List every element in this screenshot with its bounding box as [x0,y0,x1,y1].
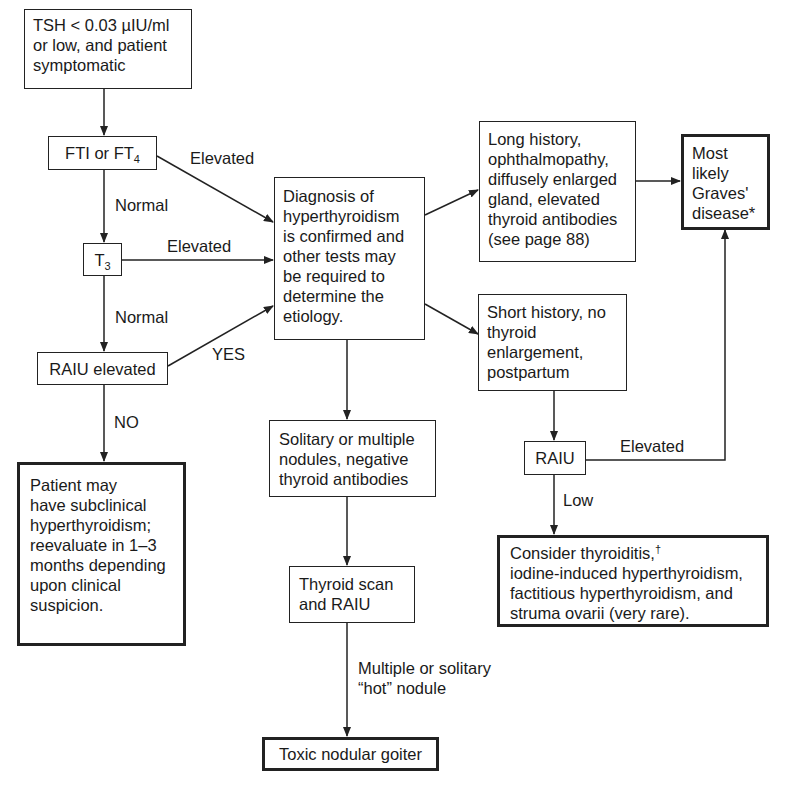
t3-box: T3 [83,243,122,276]
raiu-label: RAIU [535,448,574,468]
diagnosis-line-7: etiology. [283,306,416,326]
raiu-elevated-box: RAIU elevated [37,352,168,385]
diagnosis-box: Diagnosis of hyperthyroidism is confirme… [274,177,425,340]
edge-label-raiu-right-low: Low [563,490,593,510]
raiu-box: RAIU [524,441,586,475]
diagnosis-line-3: is confirmed and [283,226,416,246]
consider-line-1: Consider thyroiditis,† [510,543,756,563]
tsh-box: TSH < 0.03 µIU/ml or low, and patient sy… [24,9,192,89]
long-history-line-4: gland, elevated [488,189,627,209]
subclinical-line-4: reevaluate in 1–3 [30,535,173,555]
diagnosis-line-6: determine the [283,286,416,306]
edge-label-hot-nodule-1: Multiple or solitary [358,658,491,678]
short-history-line-4: postpartum [487,362,618,382]
consider-first-text: Consider thyroiditis, [510,544,655,562]
graves-box: Most likely Graves' disease* [681,134,770,230]
diagnosis-line-4: other tests may [283,246,416,266]
long-history-line-5: thyroid antibodies [488,209,627,229]
graves-line-3: Graves' [692,183,759,203]
t3-label: T3 [94,250,110,270]
nodules-line-3: thyroid antibodies [279,469,426,489]
thyroid-scan-box: Thyroid scan and RAIU [289,566,415,623]
consider-box: Consider thyroiditis,† iodine-induced hy… [497,535,769,627]
short-history-line-1: Short history, no [487,302,618,322]
subclinical-line-1: Patient may [30,475,173,495]
consider-line-3: factitious hyperthyroidism, and [510,583,756,603]
consider-line-2: iodine-induced hyperthyroidism, [510,563,756,583]
t3-subscript: 3 [104,260,110,272]
short-history-line-2: thyroid [487,322,618,342]
fti-subscript: 4 [134,153,140,165]
nodules-line-1: Solitary or multiple [279,429,426,449]
diagnosis-line-5: be required to [283,266,416,286]
nodules-box: Solitary or multiple nodules, negative t… [269,420,436,497]
long-history-line-1: Long history, [488,129,627,149]
consider-line-4: struma ovarii (very rare). [510,603,756,623]
edge-label-t3-normal: Normal [115,307,168,327]
dagger-footnote-mark: † [655,543,661,555]
long-history-line-3: diffusely enlarged [488,169,627,189]
t3-text: T [94,251,104,269]
tsh-line-2: or low, and patient [33,35,183,55]
subclinical-line-5: months depending [30,555,173,575]
nodules-line-2: nodules, negative [279,449,426,469]
edge-label-raiu-yes: YES [212,344,245,364]
graves-line-1: Most [692,143,759,163]
thyroid-scan-line-1: Thyroid scan [299,574,405,594]
long-history-line-6: (see page 88) [488,229,627,249]
fti-label: FTI or FT4 [65,143,140,163]
subclinical-box: Patient may have subclinical hyperthyroi… [17,462,186,646]
fti-text: FTI or FT [65,144,134,162]
edge-label-hot-nodule-2: “hot” nodule [358,678,446,698]
thyroid-scan-line-2: and RAIU [299,594,405,614]
long-history-line-2: ophthalmopathy, [488,149,627,169]
edge-label-raiu-no: NO [114,412,139,432]
graves-line-2: likely [692,163,759,183]
short-history-line-3: enlargement, [487,342,618,362]
long-history-box: Long history, ophthalmopathy, diffusely … [479,121,636,262]
short-history-box: Short history, no thyroid enlargement, p… [478,294,627,391]
edge-label-raiu-right-elevated: Elevated [620,436,684,456]
edge-label-fti-elevated: Elevated [190,148,254,168]
diagnosis-line-1: Diagnosis of [283,186,416,206]
diagnosis-line-2: hyperthyroidism [283,206,416,226]
tsh-line-3: symptomatic [33,55,183,75]
raiu-elevated-label: RAIU elevated [49,359,155,379]
subclinical-line-2: have subclinical [30,495,173,515]
tsh-line-1: TSH < 0.03 µIU/ml [33,15,183,35]
edge-label-t3-elevated: Elevated [167,236,231,256]
subclinical-line-7: suspicion. [30,595,173,615]
subclinical-line-3: hyperthyroidism; [30,515,173,535]
toxic-goiter-box: Toxic nodular goiter [262,737,439,771]
graves-line-4: disease* [692,203,759,223]
fti-box: FTI or FT4 [48,136,157,170]
subclinical-line-6: upon clinical [30,575,173,595]
toxic-goiter-label: Toxic nodular goiter [279,744,422,764]
edge-label-fti-normal: Normal [115,195,168,215]
